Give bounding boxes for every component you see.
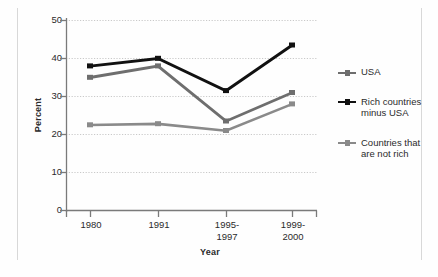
legend-swatch-usa-icon (338, 68, 356, 77)
legend-item-countries-not-rich: Countries that are not rich (338, 137, 434, 160)
legend-label-usa: USA (361, 66, 381, 78)
x-tick-line2: 2000 (256, 231, 330, 243)
legend-swatch-rich-icon (338, 98, 356, 107)
chart-legend: USA Rich countries minus USA Countries t… (338, 66, 434, 178)
x-tick-line2: 1997 (190, 231, 264, 243)
legend-label-notrich-line1: Countries that (361, 137, 420, 148)
legend-item-rich-countries-minus-usa: Rich countries minus USA (338, 96, 434, 119)
legend-label-notrich-line2: are not rich (361, 148, 409, 159)
grid-lines (66, 21, 317, 173)
x-tick-line1: 1995- (190, 219, 264, 231)
legend-label-rich-line2: minus USA (361, 107, 409, 118)
legend-swatch-notrich-icon (338, 139, 356, 148)
x-axis-spine (66, 211, 317, 218)
series-rich-countries-minus-usa (87, 43, 295, 94)
x-tick-label-1999-2000: 1999- 2000 (256, 219, 330, 243)
legend-label-notrich: Countries that are not rich (361, 137, 420, 160)
x-tick-line1: 1999- (256, 219, 330, 231)
chart-figure: 50 40 30 20 10 0 Percent (0, 0, 438, 277)
legend-item-usa: USA (338, 66, 434, 78)
legend-label-rich: Rich countries minus USA (361, 96, 421, 119)
legend-label-rich-line1: Rich countries (361, 96, 421, 107)
x-tick-label-1980: 1980 (54, 219, 128, 231)
y-axis-spine (60, 18, 67, 212)
x-tick-label-1995-1997: 1995- 1997 (190, 219, 264, 243)
x-axis-title: Year (150, 247, 270, 257)
x-tick-label-1991: 1991 (122, 219, 196, 231)
x-tick-line1: 1991 (122, 219, 196, 231)
x-tick-line1: 1980 (54, 219, 128, 231)
